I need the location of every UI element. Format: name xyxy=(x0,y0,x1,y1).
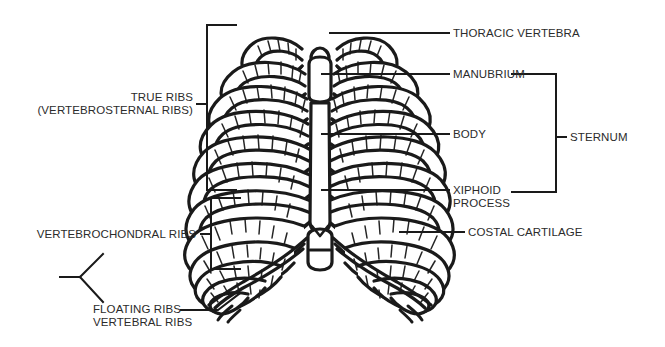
bracket-true-ribs xyxy=(207,25,236,190)
label-xiphoid-process-line2: PROCESS xyxy=(453,197,510,210)
label-true-ribs-line1: TRUE RIBS xyxy=(0,91,193,104)
label-costal-cartilage: COSTAL CARTILAGE xyxy=(468,226,583,239)
synonym-brace-lower xyxy=(80,277,103,302)
label-floating-ribs: FLOATING RIBS xyxy=(93,303,181,316)
label-thoracic-vertebra: THORACIC VERTEBRA xyxy=(453,27,580,40)
label-vertebral-ribs: VERTEBRAL RIBS xyxy=(93,316,192,329)
label-xiphoid-process-line1: XIPHOID xyxy=(453,184,501,197)
ribcage-diagram: THORACIC VERTEBRA MANUBRIUM BODY XIPHOID… xyxy=(0,0,665,347)
bracket-vertebrochondral-ribs xyxy=(211,198,240,269)
synonym-brace-upper xyxy=(80,254,103,277)
label-manubrium: MANUBRIUM xyxy=(453,68,525,81)
label-true-ribs-line2: (VERTEBROSTERNAL RIBS) xyxy=(0,104,193,117)
annotation-lines xyxy=(0,0,665,347)
bracket-sternum xyxy=(512,74,556,192)
label-sternum: STERNUM xyxy=(570,131,628,144)
leader-floating-ribs xyxy=(181,294,239,310)
label-body: BODY xyxy=(453,128,486,141)
label-vertebrochondral-ribs: VERTEBROCHONDRAL RIBS xyxy=(0,228,196,241)
